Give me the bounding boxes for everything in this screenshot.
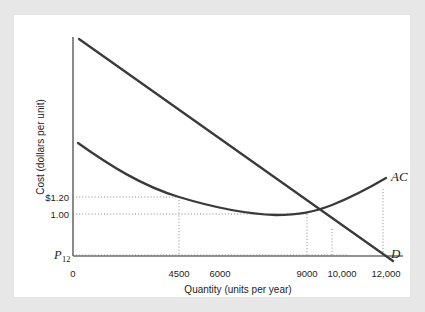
figure-panel: AC D $1.20 1.00 P 12 0 4500 6000 9000 10… [14, 15, 410, 297]
x-tick-label-12000: 12,000 [371, 268, 400, 279]
curves [78, 39, 393, 261]
average-cost-curve [78, 143, 386, 215]
ac-curve-label: AC [390, 169, 408, 184]
y-axis-title: Cost (dollars per unit) [35, 99, 46, 195]
x-tick-label-9000: 9000 [296, 268, 317, 279]
y-tick-label-120: $1.20 [45, 192, 69, 203]
demand-curve-label: D [390, 246, 401, 261]
price-symbol: P [53, 248, 62, 262]
x-tick-label-4500: 4500 [168, 268, 189, 279]
figure-root: AC D $1.20 1.00 P 12 0 4500 6000 9000 10… [0, 0, 425, 312]
price-subscript: 12 [62, 254, 71, 264]
y-tick-label-p12: P 12 [53, 248, 71, 264]
economics-cost-chart: AC D $1.20 1.00 P 12 0 4500 6000 9000 10… [14, 15, 410, 297]
x-tick-label-10000: 10,000 [327, 268, 356, 279]
x-tick-label-0: 0 [70, 268, 75, 279]
demand-curve [79, 39, 393, 261]
x-axis-title: Quantity (units per year) [184, 284, 291, 295]
y-tick-label-100: 1.00 [51, 209, 70, 220]
x-tick-label-6000: 6000 [209, 268, 230, 279]
